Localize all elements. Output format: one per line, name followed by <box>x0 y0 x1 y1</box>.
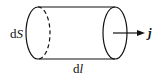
cylinder-diagram: dS dl j <box>0 0 161 78</box>
label-dS: dS <box>10 27 23 40</box>
label-dl: dl <box>73 62 83 75</box>
arrow-head-icon <box>137 30 145 36</box>
left-cap-front <box>26 7 38 59</box>
left-cap-hidden <box>38 7 50 59</box>
label-j: j <box>148 26 152 39</box>
